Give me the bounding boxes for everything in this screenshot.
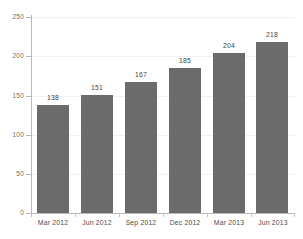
x-category-label-jun-2012: Jun 2012 bbox=[75, 220, 119, 227]
x-category-label-mar-2012: Mar 2012 bbox=[31, 220, 75, 227]
gridline-250 bbox=[32, 17, 295, 18]
x-tick-mark-5 bbox=[251, 213, 252, 217]
y-tick-label-150: 150 bbox=[0, 93, 24, 100]
bar-chart: 250 200 150 100 50 0 138 151 167 185 204… bbox=[0, 0, 303, 239]
y-tick-mark-150 bbox=[26, 96, 31, 97]
bar-mar-2012[interactable] bbox=[37, 105, 69, 213]
bar-dec-2012[interactable] bbox=[169, 68, 201, 213]
y-tick-label-0: 0 bbox=[0, 210, 24, 217]
bar-sep-2012[interactable] bbox=[125, 82, 157, 213]
y-tick-mark-50 bbox=[26, 174, 31, 175]
bar-jun-2013[interactable] bbox=[256, 42, 288, 213]
bar-value-dec-2012: 185 bbox=[169, 58, 201, 65]
y-tick-mark-100 bbox=[26, 135, 31, 136]
x-category-label-dec-2012: Dec 2012 bbox=[163, 220, 207, 227]
bar-value-sep-2012: 167 bbox=[125, 72, 157, 79]
x-tick-mark-1 bbox=[75, 213, 76, 217]
x-tick-mark-3 bbox=[163, 213, 164, 217]
x-category-label-mar-2013: Mar 2013 bbox=[207, 220, 251, 227]
bar-jun-2012[interactable] bbox=[81, 95, 113, 213]
y-tick-label-100: 100 bbox=[0, 132, 24, 139]
x-category-label-sep-2012: Sep 2012 bbox=[119, 220, 163, 227]
y-tick-label-200: 200 bbox=[0, 53, 24, 60]
x-tick-mark-6 bbox=[294, 213, 295, 217]
y-tick-mark-250 bbox=[26, 17, 31, 18]
y-tick-mark-200 bbox=[26, 56, 31, 57]
x-tick-mark-4 bbox=[207, 213, 208, 217]
x-category-label-jun-2013: Jun 2013 bbox=[251, 220, 295, 227]
bar-value-mar-2012: 138 bbox=[37, 95, 69, 102]
y-tick-label-50: 50 bbox=[0, 171, 24, 178]
bar-value-jun-2013: 218 bbox=[256, 32, 288, 39]
x-tick-mark-2 bbox=[119, 213, 120, 217]
x-tick-mark-0 bbox=[31, 213, 32, 217]
bar-mar-2013[interactable] bbox=[213, 53, 245, 213]
bar-value-mar-2013: 204 bbox=[213, 43, 245, 50]
y-tick-label-250: 250 bbox=[0, 14, 24, 21]
y-axis-line bbox=[31, 15, 32, 214]
bar-value-jun-2012: 151 bbox=[81, 85, 113, 92]
